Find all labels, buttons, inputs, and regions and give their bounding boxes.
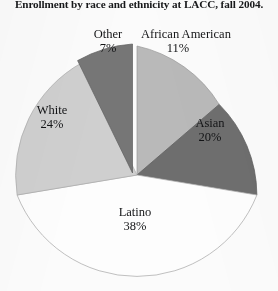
pie-slice-latino: [17, 175, 257, 276]
pie-chart-graphic: [0, 0, 278, 291]
pie-chart-figure: Enrollment by race and ethnicity at LACC…: [0, 0, 278, 291]
